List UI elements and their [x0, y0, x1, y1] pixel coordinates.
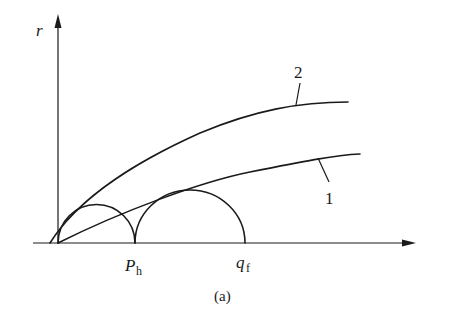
x-axis-arrow-icon [402, 240, 416, 247]
curve-2 [50, 102, 348, 243]
curve-1 [58, 154, 360, 243]
tick-label-ph-sub: h [136, 264, 142, 278]
tick-label-qf: q f [236, 253, 250, 275]
tick-label-qf-main: q [236, 253, 245, 272]
tick-label-ph-main: P [124, 256, 135, 275]
curve-1-leader-line [318, 158, 329, 182]
tick-label-qf-sub: f [246, 261, 250, 275]
y-axis-arrow-icon [55, 14, 62, 28]
diagram-canvas: r 1 2 P h q f (a) [0, 0, 475, 330]
y-axis-label: r [36, 21, 43, 40]
figure-caption: (a) [214, 288, 231, 305]
curve-2-leader-line [296, 83, 300, 105]
large-semicircle [135, 190, 245, 243]
axes [33, 14, 416, 247]
tick-label-ph: P h [124, 256, 142, 278]
curve-2-label: 2 [294, 63, 303, 82]
curve-1-label: 1 [325, 189, 334, 208]
mohr-circle-diagram: r 1 2 P h q f (a) [0, 0, 475, 330]
